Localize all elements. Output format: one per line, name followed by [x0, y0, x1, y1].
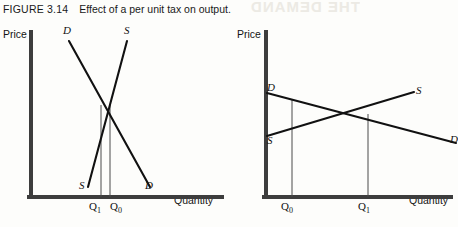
figure-caption: FIGURE 3.14Effect of a per unit tax on o…: [3, 3, 231, 15]
quantity-marker-q0-letter: Q: [281, 200, 289, 212]
supply-curve-label-left: S: [267, 134, 273, 146]
quantity-marker-q0-subscript: 0: [118, 206, 122, 215]
demand-curve-label-right: D: [450, 133, 458, 145]
quantity-marker-q0: Q0: [281, 200, 293, 215]
chart-panel-inelastic: Price Quantity D S S D Q1 Q0: [0, 24, 229, 227]
chart-panel-elastic: Price Quantity D S S D Q0 Q1: [229, 24, 458, 227]
supply-curve-label-bottom: S: [79, 179, 85, 191]
quantity-marker-q1-letter: Q: [89, 200, 97, 212]
demand-curve-label-bottom: D: [145, 179, 153, 191]
quantity-marker-q1: Q1: [358, 200, 370, 215]
demand-curve-label-top: D: [63, 24, 71, 36]
demand-curve-label-left: D: [267, 81, 275, 93]
chart-plot-area-inelastic: [0, 24, 229, 227]
supply-curve: [88, 41, 127, 187]
figure-caption-text: Effect of a per unit tax on output.: [79, 3, 231, 15]
quantity-marker-q1-subscript: 1: [366, 206, 370, 215]
quantity-marker-q1: Q1: [89, 200, 101, 215]
quantity-marker-q1-subscript: 1: [97, 206, 101, 215]
figure-number: FIGURE 3.14: [3, 3, 68, 15]
supply-curve-label-right: S: [416, 84, 422, 96]
supply-curve-label-top: S: [124, 24, 130, 36]
figure-container: THE DEMAND FIGURE 3.14Effect of a per un…: [0, 0, 458, 227]
quantity-marker-q1-letter: Q: [358, 200, 366, 212]
demand-curve: [267, 93, 456, 143]
quantity-marker-q0-subscript: 0: [289, 206, 293, 215]
quantity-marker-q0-letter: Q: [110, 200, 118, 212]
chart-plot-area-elastic: [229, 24, 458, 227]
page-bleedthrough-text: THE DEMAND: [250, 0, 360, 15]
quantity-marker-q0: Q0: [110, 200, 122, 215]
